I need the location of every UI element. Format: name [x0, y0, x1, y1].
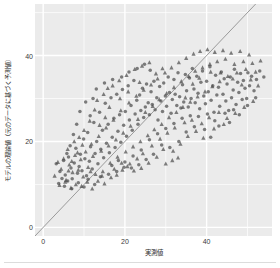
data-point-circle — [145, 82, 149, 86]
data-point-circle — [178, 95, 182, 99]
data-point-triangle — [160, 66, 164, 70]
data-point-circle — [158, 85, 162, 89]
data-point-circle — [83, 157, 87, 161]
data-point-circle — [120, 75, 124, 79]
data-point-circle — [138, 93, 142, 97]
data-point-circle — [209, 135, 213, 139]
data-point-circle — [186, 105, 190, 109]
data-point-circle — [148, 68, 152, 72]
data-point-circle — [74, 147, 78, 151]
data-point-circle — [139, 109, 143, 113]
data-point-triangle — [208, 62, 212, 66]
data-point-triangle — [171, 149, 175, 153]
data-point-circle — [98, 111, 102, 115]
data-point-circle — [119, 141, 123, 145]
data-point-triangle — [191, 82, 195, 86]
data-point-triangle — [258, 58, 262, 62]
data-point-triangle — [198, 49, 202, 53]
data-point-triangle — [160, 122, 164, 126]
page-separator-rule — [4, 262, 276, 263]
data-point-circle — [68, 144, 72, 148]
data-point-triangle — [200, 65, 204, 69]
data-point-circle — [206, 112, 210, 116]
data-point-triangle — [182, 120, 186, 124]
data-point-circle — [131, 154, 135, 158]
data-point-triangle — [223, 57, 227, 61]
data-point-circle — [248, 84, 252, 88]
data-point-circle — [65, 152, 69, 156]
data-point-circle — [85, 174, 89, 178]
data-point-triangle — [139, 166, 143, 170]
data-point-triangle — [146, 133, 150, 137]
data-point-triangle — [81, 174, 85, 178]
data-point-circle — [240, 98, 244, 102]
data-point-circle — [252, 89, 256, 93]
data-point-circle — [152, 80, 156, 84]
data-point-triangle — [221, 48, 225, 52]
data-point-circle — [203, 128, 207, 132]
data-point-triangle — [146, 161, 150, 165]
data-point-triangle — [131, 144, 135, 148]
data-point-circle — [221, 92, 225, 96]
data-point-triangle — [218, 79, 222, 83]
data-point-triangle — [93, 107, 97, 111]
data-point-circle — [149, 90, 153, 94]
data-point-circle — [78, 110, 82, 114]
data-point-triangle — [97, 123, 101, 127]
data-point-triangle — [66, 147, 70, 151]
data-point-circle — [63, 184, 67, 188]
data-point-triangle — [108, 161, 112, 165]
data-point-triangle — [242, 105, 246, 109]
data-point-circle — [185, 89, 189, 93]
data-point-triangle — [103, 115, 107, 119]
data-point-circle — [165, 105, 169, 109]
data-point-circle — [245, 97, 249, 101]
data-point-circle — [172, 78, 176, 82]
data-point-circle — [122, 123, 126, 127]
data-point-circle — [232, 108, 236, 112]
data-point-triangle — [126, 89, 130, 93]
data-point-triangle — [155, 76, 159, 80]
data-point-circle — [175, 104, 179, 108]
data-point-circle — [246, 104, 250, 108]
data-point-circle — [156, 132, 160, 136]
data-point-circle — [126, 84, 130, 88]
data-point-triangle — [104, 125, 108, 129]
data-point-circle — [148, 138, 152, 142]
data-point-circle — [128, 118, 132, 122]
data-point-triangle — [222, 122, 226, 126]
data-point-circle — [218, 105, 222, 109]
data-point-circle — [197, 115, 201, 119]
data-point-triangle — [90, 186, 94, 190]
data-point-circle — [135, 98, 139, 102]
data-point-circle — [166, 75, 170, 79]
data-point-triangle — [194, 129, 198, 133]
y-axis-tick-labels: 02040 — [12, 0, 33, 236]
data-point-triangle — [241, 59, 245, 63]
data-point-circle — [214, 74, 218, 78]
data-point-triangle — [137, 80, 141, 84]
data-point-circle — [176, 71, 180, 75]
data-point-triangle — [184, 56, 188, 60]
data-point-circle — [168, 146, 172, 150]
data-point-triangle — [136, 117, 140, 121]
data-point-circle — [215, 93, 219, 97]
data-point-circle — [136, 123, 140, 127]
data-point-circle — [201, 69, 205, 73]
data-point-circle — [95, 87, 99, 91]
data-point-circle — [180, 117, 184, 121]
data-point-triangle — [152, 127, 156, 131]
data-point-circle — [162, 81, 166, 85]
data-point-circle — [75, 123, 79, 127]
data-point-triangle — [240, 82, 244, 86]
y-tick-label: 20 — [13, 138, 33, 145]
data-point-triangle — [225, 116, 229, 120]
data-point-circle — [88, 159, 92, 163]
data-point-circle — [196, 92, 200, 96]
data-point-circle — [237, 91, 241, 95]
data-point-circle — [168, 91, 172, 95]
data-point-circle — [115, 92, 119, 96]
data-point-circle — [105, 141, 109, 145]
data-point-circle — [106, 123, 110, 127]
data-point-triangle — [134, 94, 138, 98]
